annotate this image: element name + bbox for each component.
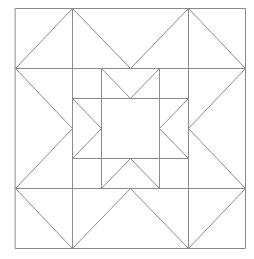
- quilt-block-diagram: [0, 0, 254, 259]
- top-chevron: [73, 9, 189, 69]
- corner-bottom-right-diagonal: [189, 189, 246, 249]
- right-chevron: [189, 69, 246, 189]
- inner-top-chevron: [102, 69, 160, 99]
- left-chevron: [16, 69, 73, 189]
- corner-top-right-diagonal: [189, 9, 246, 69]
- outer-square: [16, 9, 246, 249]
- inner-right-chevron: [160, 99, 189, 159]
- bottom-chevron: [73, 189, 189, 249]
- grid-lines: [16, 9, 246, 249]
- corner-top-left-diagonal: [16, 9, 73, 69]
- corner-bottom-left-diagonal: [16, 189, 73, 249]
- inner-left-chevron: [73, 99, 102, 159]
- inner-bottom-chevron: [102, 159, 160, 189]
- chevron-shapes: [16, 9, 246, 249]
